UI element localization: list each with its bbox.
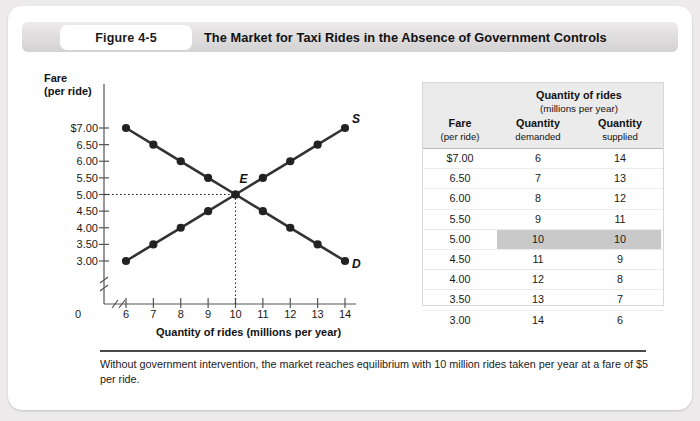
cell-fare: $7.00	[423, 149, 497, 168]
column-header-fare: Fare (per ride)	[423, 117, 497, 143]
cell-quantity-supplied: 12	[579, 189, 661, 208]
supply-data-point	[341, 124, 349, 132]
supply-data-point	[231, 190, 239, 198]
cell-fare: 6.00	[423, 189, 497, 208]
demand-curve-label: D	[352, 257, 361, 271]
table-column-headers: Fare (per ride) Quantity demanded Quanti…	[423, 115, 663, 148]
column-header-qd-sub: demanded	[515, 131, 560, 142]
cell-fare: 3.50	[423, 290, 497, 309]
supply-curve-label: S	[352, 112, 360, 126]
cell-quantity-demanded: 10	[497, 230, 579, 249]
table-row: 6.00812	[423, 189, 663, 209]
table-row: 5.001010	[423, 230, 663, 250]
chart: Fare (per ride) Quantity of rides (milli…	[8, 6, 408, 356]
cell-quantity-supplied: 9	[579, 250, 661, 269]
supply-data-point	[286, 157, 294, 165]
cell-quantity-supplied: 14	[579, 149, 661, 168]
cell-fare: 6.50	[423, 169, 497, 188]
table-body: $7.006146.507136.008125.509115.0010104.5…	[423, 149, 663, 330]
demand-data-point	[204, 174, 212, 182]
cell-fare: 3.00	[423, 311, 497, 330]
column-header-fare-sub: (per ride)	[441, 131, 480, 142]
table-row: 3.00146	[423, 311, 663, 330]
table-super-header-title: Quantity of rides	[536, 89, 622, 101]
demand-data-point	[177, 157, 185, 165]
plot-svg	[8, 6, 408, 356]
column-header-quantity-supplied: Quantity supplied	[579, 117, 661, 143]
demand-data-point	[286, 224, 294, 232]
cell-quantity-demanded: 6	[497, 149, 579, 168]
demand-data-point	[122, 124, 130, 132]
cell-quantity-demanded: 9	[497, 210, 579, 229]
cell-fare: 5.00	[423, 230, 497, 249]
equilibrium-point-label: E	[240, 172, 248, 186]
cell-quantity-demanded: 11	[497, 250, 579, 269]
caption-divider	[100, 350, 646, 352]
supply-data-point	[149, 240, 157, 248]
supply-data-point	[122, 257, 130, 265]
column-header-qd-label: Quantity	[516, 117, 560, 129]
cell-fare: 4.50	[423, 250, 497, 269]
supply-data-point	[259, 174, 267, 182]
column-header-quantity-demanded: Quantity demanded	[497, 117, 579, 143]
cell-quantity-supplied: 13	[579, 169, 661, 188]
figure-caption: Without government intervention, the mar…	[100, 357, 648, 387]
supply-demand-table: Quantity of rides (millions per year) Fa…	[422, 82, 664, 306]
supply-data-point	[204, 207, 212, 215]
cell-fare: 4.00	[423, 270, 497, 289]
cell-quantity-supplied: 6	[579, 311, 661, 330]
demand-data-point	[149, 141, 157, 149]
cell-quantity-demanded: 14	[497, 311, 579, 330]
cell-quantity-demanded: 8	[497, 189, 579, 208]
column-header-qs-label: Quantity	[598, 117, 642, 129]
column-header-fare-label: Fare	[449, 117, 472, 129]
cell-quantity-demanded: 12	[497, 270, 579, 289]
demand-data-point	[314, 240, 322, 248]
cell-quantity-supplied: 10	[579, 230, 661, 249]
table-row: 4.00128	[423, 270, 663, 290]
figure-panel: Figure 4-5 The Market for Taxi Rides in …	[8, 6, 692, 410]
cell-quantity-supplied: 11	[579, 210, 661, 229]
table-header: Quantity of rides (millions per year) Fa…	[423, 83, 663, 149]
cell-quantity-demanded: 13	[497, 290, 579, 309]
supply-data-point	[314, 141, 322, 149]
demand-data-point	[259, 207, 267, 215]
column-header-qs-sub: supplied	[602, 131, 638, 142]
supply-data-point	[177, 224, 185, 232]
table-row: 3.50137	[423, 290, 663, 310]
table-super-header-subtitle: (millions per year)	[540, 103, 618, 114]
cell-fare: 5.50	[423, 210, 497, 229]
demand-data-point	[341, 257, 349, 265]
table-super-header: Quantity of rides (millions per year)	[423, 89, 663, 115]
table-row: 4.50119	[423, 250, 663, 270]
table-row: 5.50911	[423, 210, 663, 230]
cell-quantity-supplied: 7	[579, 290, 661, 309]
cell-quantity-supplied: 8	[579, 270, 661, 289]
table-row: 6.50713	[423, 169, 663, 189]
cell-quantity-demanded: 7	[497, 169, 579, 188]
table-row: $7.00614	[423, 149, 663, 169]
